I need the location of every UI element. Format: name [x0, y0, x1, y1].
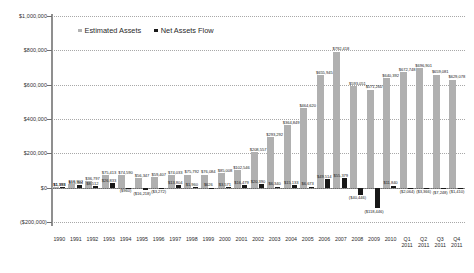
bar-estimated-assets — [449, 80, 456, 188]
bar-estimated-assets — [383, 78, 390, 188]
x-axis-tick-labels: 1990199119921993199419951996199719981999… — [51, 236, 465, 249]
x-axis-tick-label: 2009 — [366, 236, 383, 249]
bar-group: $75,792$1,960 — [184, 16, 201, 222]
bar-value-label: $74,590 — [118, 170, 132, 175]
bar-value-label: ($960) — [120, 188, 132, 193]
bar-group: $293,292$6,340 — [266, 16, 283, 222]
bar-value-label: $3,571 — [219, 182, 231, 187]
bar-estimated-assets — [317, 75, 324, 188]
bar-net-assets-flow — [292, 185, 297, 188]
bar-estimated-assets — [118, 175, 125, 188]
bar-group: $364,849$15,133 — [283, 16, 300, 222]
x-axis-tick-label: 1996 — [150, 236, 167, 249]
bar-value-label: $655,945 — [316, 70, 333, 75]
bar-value-label: $11,840 — [383, 180, 397, 185]
x-axis-tick-label: 1997 — [167, 236, 184, 249]
bar-value-label: ($40,446) — [349, 195, 366, 200]
bar-estimated-assets — [52, 187, 59, 188]
x-axis-tick-label: 2002 — [250, 236, 267, 249]
bar-value-label: $792,418 — [333, 46, 350, 51]
bar-net-assets-flow — [77, 185, 82, 188]
bar-value-label: $26,833 — [102, 178, 116, 183]
y-axis-tick-label: $600,000 — [24, 82, 47, 88]
bar-estimated-assets — [367, 90, 374, 188]
bar-group: $1,393$1,393 — [51, 16, 68, 222]
bar-value-label: ($1,410) — [449, 189, 464, 194]
y-axis-tick-label: ($200,000) — [20, 219, 47, 225]
x-axis-tick-label: 2000 — [217, 236, 234, 249]
bar-net-assets-flow — [60, 187, 65, 188]
bar-group: $792,418$55,379 — [333, 16, 350, 222]
bar-value-label: $76,084 — [201, 169, 215, 174]
bar-group: $672,748($2,064) — [399, 16, 416, 222]
y-axis-tick — [47, 222, 52, 223]
bar-value-label: $15,133 — [284, 180, 298, 185]
y-axis-tick-label: $800,000 — [24, 47, 47, 53]
bar-group: $629,078($1,410) — [449, 16, 466, 222]
bar-value-label: ($3,366) — [416, 189, 431, 194]
bar-net-assets-flow — [110, 183, 115, 188]
bar-value-label: $56,347 — [135, 173, 149, 178]
bar-value-label: $571,260 — [366, 84, 383, 89]
x-axis-tick-label: 1993 — [101, 236, 118, 249]
x-axis-tick-label: Q42011 — [449, 236, 466, 249]
bar-value-label: $16,479 — [234, 180, 248, 185]
bar-value-label: $102,546 — [233, 165, 250, 170]
bar-value-label: $15,344 — [69, 180, 83, 185]
bar-value-label: $85,008 — [218, 168, 232, 173]
x-axis-tick-label: 2001 — [233, 236, 250, 249]
bar-group: $571,260($118,446) — [366, 16, 383, 222]
bar-value-label: $6,340 — [268, 181, 280, 186]
bar-net-assets-flow — [176, 185, 181, 187]
bar-value-label: $626 — [204, 182, 213, 187]
bar-net-assets-flow — [391, 186, 396, 188]
bar-value-label: ($7,248) — [433, 190, 448, 195]
bar-net-assets-flow — [309, 187, 314, 188]
bar-value-label: ($2,064) — [400, 189, 415, 194]
x-axis-tick-label: Q32011 — [432, 236, 449, 249]
bar-value-label: $55,379 — [334, 173, 348, 178]
bar-group: $56,347($16,218) — [134, 16, 151, 222]
bar-value-label: $75,413 — [102, 170, 116, 175]
bar-estimated-assets — [433, 75, 440, 188]
bar-value-label: ($16,218) — [134, 191, 151, 196]
x-axis-tick-label: 1990 — [51, 236, 68, 249]
bar-net-assets-flow — [226, 187, 231, 188]
bar-net-assets-flow — [375, 188, 380, 208]
bar-value-label: $364,849 — [283, 120, 300, 125]
bar-estimated-assets — [350, 86, 357, 188]
bar-estimated-assets — [400, 72, 407, 187]
bar-estimated-assets — [151, 177, 158, 187]
bar-net-assets-flow — [242, 185, 247, 188]
bar-group: $655,945$49,514 — [316, 16, 333, 222]
bar-net-assets-flow — [193, 187, 198, 188]
bar-group: $76,084$626 — [200, 16, 217, 222]
bar-value-label: $1,393 — [53, 182, 65, 187]
bar-net-assets-flow — [143, 188, 148, 191]
bar-estimated-assets — [300, 108, 307, 188]
x-axis-tick-label: 2005 — [299, 236, 316, 249]
y-axis-tick-label: $400,000 — [24, 116, 47, 122]
bar-net-assets-flow — [342, 178, 347, 188]
bar-group: $640,392$11,840 — [382, 16, 399, 222]
x-axis-tick-label: 2010 — [382, 236, 399, 249]
bar-value-label: $6,673 — [302, 181, 314, 186]
bar-net-assets-flow — [259, 184, 264, 188]
bar-net-assets-flow — [209, 188, 214, 189]
bar-group: $36,797$8,512 — [84, 16, 101, 222]
bar-estimated-assets — [284, 125, 291, 188]
bar-estimated-assets — [135, 178, 142, 188]
x-axis-tick-label: 1992 — [84, 236, 101, 249]
x-axis-tick-label: 1999 — [200, 236, 217, 249]
x-axis-tick-label: 1994 — [117, 236, 134, 249]
bar-value-label: $8,512 — [86, 181, 98, 186]
x-axis-tick-label: 1998 — [184, 236, 201, 249]
bar-group: $75,413$26,833 — [101, 16, 118, 222]
y-axis-tick-labels: $1,000,000$800,000$600,000$400,000$200,0… — [0, 16, 47, 222]
bar-group: $464,620$6,673 — [299, 16, 316, 222]
plot-area: $1,393$1,393$19,902$15,344$36,797$8,512$… — [51, 16, 465, 222]
x-axis-tick-label: 2003 — [266, 236, 283, 249]
x-axis-tick-label: 1995 — [134, 236, 151, 249]
bar-net-assets-flow — [93, 186, 98, 187]
bar-value-label: $75,792 — [185, 169, 199, 174]
